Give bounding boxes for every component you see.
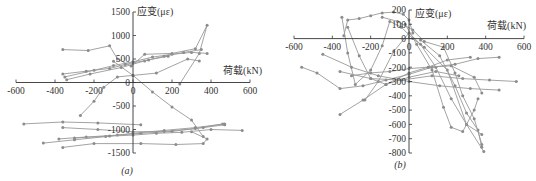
- y-axis-title: 应变(με): [415, 7, 451, 20]
- data-point-marker: [431, 74, 434, 77]
- data-point-marker: [186, 58, 189, 61]
- data-series-line: [421, 40, 482, 147]
- data-point-marker: [362, 84, 365, 87]
- data-point-marker: [381, 11, 384, 14]
- data-point-marker: [96, 121, 99, 124]
- data-point-marker: [515, 80, 518, 83]
- data-point-marker: [469, 87, 472, 90]
- data-point-marker: [210, 128, 213, 131]
- data-point-marker: [223, 122, 226, 125]
- data-point-marker: [340, 16, 343, 19]
- data-point-marker: [461, 77, 464, 80]
- y-tick-label: 0: [125, 78, 130, 88]
- data-point-marker: [369, 77, 372, 80]
- data-point-marker: [108, 135, 111, 138]
- y-tick-label: 1000: [111, 31, 130, 41]
- x-axis-title: 荷载(kN): [487, 20, 526, 32]
- data-point-marker: [346, 51, 349, 54]
- y-tick-label: -800: [389, 148, 407, 158]
- data-point-marker: [206, 24, 209, 27]
- x-tick-label: 0: [131, 86, 136, 96]
- y-tick-label: 0: [401, 34, 406, 44]
- x-tick-label: -400: [324, 42, 342, 52]
- data-point-marker: [93, 142, 96, 145]
- data-point-marker: [427, 66, 430, 69]
- data-point-marker: [454, 84, 457, 87]
- data-point-marker: [482, 150, 485, 153]
- data-point-marker: [454, 71, 457, 74]
- y-tick-label: 200: [392, 5, 407, 15]
- data-point-marker: [171, 105, 174, 108]
- data-point-marker: [96, 128, 99, 131]
- data-point-marker: [423, 40, 426, 43]
- data-point-marker: [73, 137, 76, 140]
- data-point-marker: [480, 143, 483, 146]
- x-tick-label: 600: [243, 86, 258, 96]
- data-point-marker: [61, 48, 64, 51]
- data-point-marker: [381, 16, 384, 19]
- panel-caption: (a): [121, 165, 133, 177]
- data-point-marker: [108, 44, 111, 47]
- y-tick-label: -700: [389, 134, 407, 144]
- data-point-marker: [369, 14, 372, 17]
- data-point-marker: [321, 53, 324, 56]
- data-point-marker: [469, 56, 472, 59]
- data-point-marker: [415, 43, 418, 46]
- data-point-marker: [450, 97, 453, 100]
- data-point-marker: [174, 143, 177, 146]
- data-point-marker: [358, 54, 361, 57]
- data-point-marker: [241, 129, 244, 132]
- data-point-marker: [79, 114, 82, 117]
- data-point-marker: [87, 49, 90, 52]
- strain-load-chart-b: -600-400-20002004006002001000-100-200-30…: [270, 0, 536, 181]
- x-tick-label: -200: [362, 42, 380, 52]
- x-tick-label: -600: [7, 86, 25, 96]
- data-point-marker: [151, 90, 154, 93]
- data-point-marker: [339, 113, 342, 116]
- data-point-marker: [139, 142, 142, 145]
- data-point-marker: [112, 60, 115, 63]
- data-point-marker: [112, 64, 115, 67]
- data-point-marker: [93, 100, 96, 103]
- data-point-marker: [473, 76, 476, 79]
- data-point-marker: [419, 43, 422, 46]
- data-point-marker: [381, 44, 384, 47]
- y-tick-label: -1500: [108, 148, 130, 158]
- y-tick-label: -500: [389, 105, 407, 115]
- chart-panel-a: -600-400-2000200400600150010005000-500-1…: [0, 0, 270, 181]
- y-tick-label: -600: [389, 120, 407, 130]
- data-point-marker: [163, 129, 166, 132]
- data-point-marker: [377, 74, 380, 77]
- y-tick-label: -200: [389, 63, 407, 73]
- data-point-marker: [442, 106, 445, 109]
- data-point-marker: [363, 99, 366, 102]
- data-point-marker: [180, 131, 183, 134]
- data-point-marker: [182, 51, 185, 54]
- data-point-marker: [200, 48, 203, 51]
- data-point-marker: [85, 70, 88, 73]
- data-point-marker: [369, 69, 372, 72]
- data-point-marker: [190, 119, 193, 122]
- y-tick-label: 1500: [111, 7, 130, 17]
- data-point-marker: [358, 17, 361, 20]
- y-axis-title: 应变(με): [137, 5, 173, 18]
- data-point-marker: [143, 53, 146, 56]
- data-point-marker: [22, 122, 25, 125]
- data-point-marker: [198, 59, 201, 62]
- data-point-marker: [411, 31, 414, 34]
- x-tick-label: 600: [517, 42, 532, 52]
- data-point-marker: [438, 54, 441, 57]
- data-point-marker: [434, 70, 437, 73]
- data-point-marker: [167, 55, 170, 58]
- data-point-marker: [473, 109, 476, 112]
- x-tick-label: 400: [479, 42, 494, 52]
- data-point-marker: [339, 87, 342, 90]
- data-point-marker: [346, 19, 349, 22]
- data-point-marker: [477, 97, 480, 100]
- data-point-marker: [465, 112, 468, 115]
- y-tick-label: -100: [389, 48, 407, 58]
- data-point-marker: [300, 66, 303, 69]
- x-tick-label: 400: [204, 86, 219, 96]
- data-point-marker: [61, 146, 64, 149]
- data-point-marker: [147, 58, 150, 61]
